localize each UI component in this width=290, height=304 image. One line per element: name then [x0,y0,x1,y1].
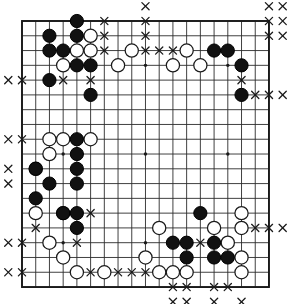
territory-marker-x [5,269,12,276]
star-point-dot [144,241,147,244]
territory-marker-x [169,298,176,304]
black-stone[interactable] [84,88,97,101]
black-stone[interactable] [70,14,83,27]
territory-marker-x [279,91,286,98]
white-stone[interactable] [235,207,248,220]
territory-marker-x [265,3,272,10]
black-stone[interactable] [57,44,70,57]
territory-marker-x [238,298,245,304]
star-point-dot [226,64,229,67]
black-stone[interactable] [180,236,193,249]
black-stone[interactable] [194,207,207,220]
white-stone[interactable] [29,207,42,220]
white-stone[interactable] [84,133,97,146]
white-stone[interactable] [111,59,124,72]
black-stone[interactable] [84,59,97,72]
white-stone[interactable] [57,251,70,264]
black-stone[interactable] [207,44,220,57]
white-stone[interactable] [153,221,166,234]
black-stone[interactable] [221,251,234,264]
white-stone[interactable] [43,147,56,160]
white-stone[interactable] [43,236,56,249]
black-stone[interactable] [70,162,83,175]
black-stone[interactable] [166,236,179,249]
white-stone[interactable] [70,44,83,57]
go-board-page [0,0,290,304]
black-stone[interactable] [70,133,83,146]
white-stone[interactable] [166,59,179,72]
black-stone[interactable] [70,221,83,234]
black-stone[interactable] [43,29,56,42]
white-stone[interactable] [43,133,56,146]
white-stone[interactable] [180,44,193,57]
star-point-dot [61,152,64,155]
black-stone[interactable] [235,88,248,101]
go-board-container[interactable] [0,0,290,304]
white-stone[interactable] [235,221,248,234]
black-stone[interactable] [43,177,56,190]
black-stone[interactable] [70,147,83,160]
territory-marker-x [183,298,190,304]
white-stone[interactable] [98,266,111,279]
black-stone[interactable] [180,251,193,264]
black-stone[interactable] [70,59,83,72]
black-stone[interactable] [70,29,83,42]
territory-marker-x [279,224,286,231]
white-stone[interactable] [57,133,70,146]
black-stone[interactable] [29,162,42,175]
black-stone[interactable] [207,251,220,264]
territory-marker-x [5,136,12,143]
star-point-dot [61,241,64,244]
white-stone[interactable] [125,44,138,57]
territory-marker-x [142,3,149,10]
white-stone[interactable] [57,59,70,72]
territory-marker-x [5,77,12,84]
black-stone[interactable] [70,177,83,190]
star-point-dot [226,152,229,155]
territory-marker-x [5,180,12,187]
white-stone[interactable] [139,251,152,264]
black-stone[interactable] [235,59,248,72]
white-stone[interactable] [221,236,234,249]
star-point-dot [144,152,147,155]
black-stone[interactable] [57,207,70,220]
black-stone[interactable] [29,192,42,205]
white-stone[interactable] [235,251,248,264]
white-stone[interactable] [70,266,83,279]
black-stone[interactable] [221,44,234,57]
white-stone[interactable] [235,266,248,279]
white-stone[interactable] [194,59,207,72]
territory-marker-x [279,3,286,10]
territory-marker-x [279,32,286,39]
black-stone[interactable] [43,74,56,87]
territory-marker-x [279,17,286,24]
territory-marker-x [5,239,12,246]
star-point-dot [144,64,147,67]
go-board-svg[interactable] [0,0,290,304]
white-stone[interactable] [84,29,97,42]
black-stone[interactable] [43,44,56,57]
black-stone[interactable] [207,236,220,249]
white-stone[interactable] [153,266,166,279]
white-stone[interactable] [84,44,97,57]
territory-marker-x [210,298,217,304]
white-stone[interactable] [166,266,179,279]
black-stone[interactable] [70,207,83,220]
territory-marker-x [5,165,12,172]
white-stone[interactable] [180,266,193,279]
white-stone[interactable] [207,221,220,234]
